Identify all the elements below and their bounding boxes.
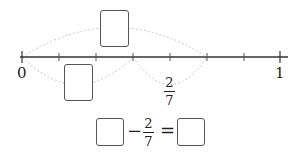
equation-left-box[interactable]: [96, 118, 124, 146]
fraction-numerator: 2: [144, 117, 152, 130]
fraction-bar: [164, 91, 175, 92]
equation-fraction: 2 7: [143, 117, 154, 148]
fraction-denominator: 7: [144, 135, 152, 148]
fraction-denominator: 7: [165, 94, 173, 107]
answer-box-below[interactable]: [64, 64, 93, 101]
equals-sign: =: [160, 122, 175, 140]
answer-box-above[interactable]: [100, 10, 129, 47]
jump-fraction-label: 2 7: [164, 76, 175, 107]
minus-sign: −: [127, 122, 142, 140]
label-zero: 0: [17, 66, 27, 81]
fraction-bar: [143, 132, 154, 133]
fraction-numerator: 2: [165, 76, 173, 89]
equation-right-box[interactable]: [177, 118, 205, 146]
label-one: 1: [275, 66, 285, 81]
